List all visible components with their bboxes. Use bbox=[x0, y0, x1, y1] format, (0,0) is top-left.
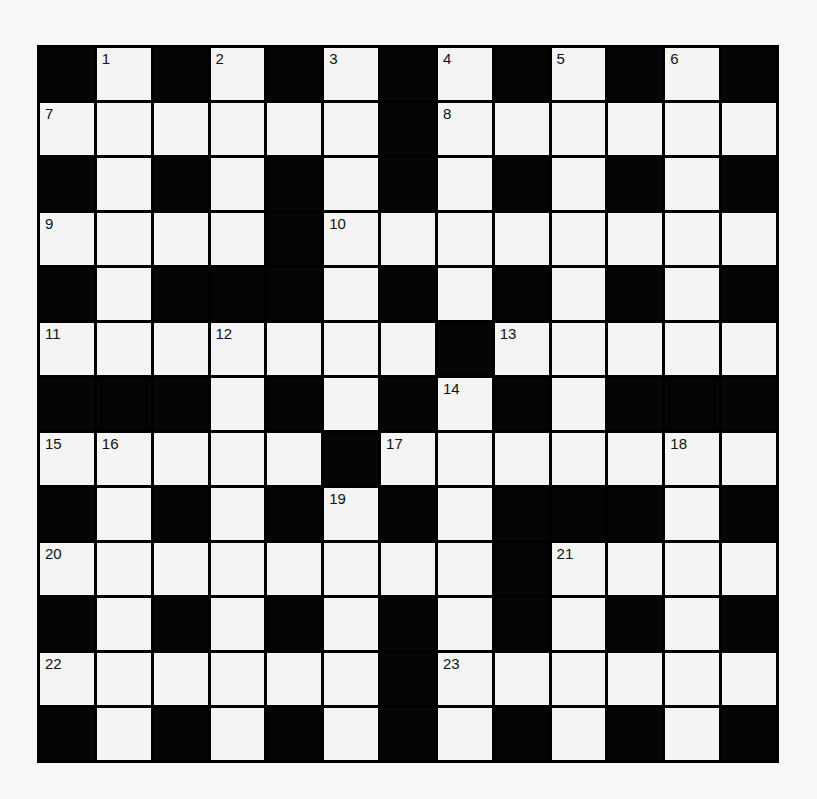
answer-cell[interactable] bbox=[324, 378, 378, 430]
answer-cell[interactable] bbox=[324, 158, 378, 210]
answer-cell[interactable] bbox=[267, 543, 321, 595]
answer-cell[interactable]: 8 bbox=[438, 103, 492, 155]
answer-cell[interactable] bbox=[381, 543, 435, 595]
answer-cell[interactable] bbox=[324, 103, 378, 155]
answer-cell[interactable] bbox=[97, 158, 151, 210]
answer-cell[interactable] bbox=[154, 653, 208, 705]
answer-cell[interactable]: 18 bbox=[665, 433, 719, 485]
answer-cell[interactable] bbox=[608, 433, 662, 485]
answer-cell[interactable] bbox=[552, 213, 606, 265]
answer-cell[interactable]: 2 bbox=[211, 48, 265, 100]
answer-cell[interactable] bbox=[97, 103, 151, 155]
answer-cell[interactable]: 7 bbox=[40, 103, 94, 155]
answer-cell[interactable] bbox=[495, 213, 549, 265]
answer-cell[interactable] bbox=[438, 213, 492, 265]
answer-cell[interactable] bbox=[552, 268, 606, 320]
answer-cell[interactable]: 17 bbox=[381, 433, 435, 485]
answer-cell[interactable] bbox=[381, 323, 435, 375]
answer-cell[interactable]: 22 bbox=[40, 653, 94, 705]
answer-cell[interactable] bbox=[324, 598, 378, 650]
answer-cell[interactable] bbox=[552, 103, 606, 155]
answer-cell[interactable] bbox=[324, 543, 378, 595]
answer-cell[interactable]: 12 bbox=[211, 323, 265, 375]
answer-cell[interactable] bbox=[154, 323, 208, 375]
answer-cell[interactable] bbox=[665, 268, 719, 320]
answer-cell[interactable] bbox=[722, 103, 776, 155]
answer-cell[interactable] bbox=[665, 488, 719, 540]
answer-cell[interactable] bbox=[267, 433, 321, 485]
answer-cell[interactable] bbox=[211, 158, 265, 210]
answer-cell[interactable] bbox=[154, 543, 208, 595]
answer-cell[interactable]: 11 bbox=[40, 323, 94, 375]
answer-cell[interactable] bbox=[495, 103, 549, 155]
answer-cell[interactable]: 6 bbox=[665, 48, 719, 100]
answer-cell[interactable]: 20 bbox=[40, 543, 94, 595]
answer-cell[interactable] bbox=[438, 543, 492, 595]
answer-cell[interactable]: 10 bbox=[324, 213, 378, 265]
answer-cell[interactable]: 15 bbox=[40, 433, 94, 485]
answer-cell[interactable] bbox=[97, 653, 151, 705]
answer-cell[interactable] bbox=[552, 708, 606, 760]
answer-cell[interactable] bbox=[324, 708, 378, 760]
answer-cell[interactable] bbox=[552, 158, 606, 210]
answer-cell[interactable]: 3 bbox=[324, 48, 378, 100]
answer-cell[interactable]: 16 bbox=[97, 433, 151, 485]
answer-cell[interactable] bbox=[438, 268, 492, 320]
answer-cell[interactable] bbox=[665, 598, 719, 650]
answer-cell[interactable]: 14 bbox=[438, 378, 492, 430]
answer-cell[interactable] bbox=[97, 708, 151, 760]
answer-cell[interactable] bbox=[97, 268, 151, 320]
answer-cell[interactable] bbox=[665, 103, 719, 155]
answer-cell[interactable] bbox=[552, 598, 606, 650]
answer-cell[interactable] bbox=[211, 653, 265, 705]
answer-cell[interactable] bbox=[722, 543, 776, 595]
answer-cell[interactable]: 9 bbox=[40, 213, 94, 265]
answer-cell[interactable] bbox=[211, 103, 265, 155]
answer-cell[interactable] bbox=[665, 543, 719, 595]
answer-cell[interactable]: 4 bbox=[438, 48, 492, 100]
answer-cell[interactable] bbox=[324, 323, 378, 375]
answer-cell[interactable] bbox=[608, 323, 662, 375]
answer-cell[interactable] bbox=[438, 158, 492, 210]
answer-cell[interactable] bbox=[495, 653, 549, 705]
answer-cell[interactable] bbox=[154, 433, 208, 485]
answer-cell[interactable] bbox=[665, 213, 719, 265]
answer-cell[interactable] bbox=[438, 708, 492, 760]
answer-cell[interactable] bbox=[438, 488, 492, 540]
answer-cell[interactable] bbox=[154, 103, 208, 155]
answer-cell[interactable] bbox=[665, 323, 719, 375]
answer-cell[interactable] bbox=[552, 433, 606, 485]
answer-cell[interactable] bbox=[438, 598, 492, 650]
answer-cell[interactable] bbox=[267, 323, 321, 375]
answer-cell[interactable] bbox=[211, 378, 265, 430]
answer-cell[interactable] bbox=[211, 708, 265, 760]
answer-cell[interactable] bbox=[211, 598, 265, 650]
answer-cell[interactable] bbox=[211, 433, 265, 485]
answer-cell[interactable] bbox=[97, 543, 151, 595]
answer-cell[interactable] bbox=[495, 433, 549, 485]
answer-cell[interactable] bbox=[608, 213, 662, 265]
answer-cell[interactable] bbox=[608, 653, 662, 705]
answer-cell[interactable] bbox=[722, 653, 776, 705]
answer-cell[interactable] bbox=[665, 708, 719, 760]
answer-cell[interactable] bbox=[97, 598, 151, 650]
answer-cell[interactable] bbox=[552, 378, 606, 430]
answer-cell[interactable] bbox=[97, 213, 151, 265]
answer-cell[interactable] bbox=[722, 213, 776, 265]
answer-cell[interactable] bbox=[97, 323, 151, 375]
answer-cell[interactable] bbox=[267, 103, 321, 155]
answer-cell[interactable] bbox=[211, 543, 265, 595]
answer-cell[interactable] bbox=[324, 653, 378, 705]
answer-cell[interactable]: 1 bbox=[97, 48, 151, 100]
answer-cell[interactable] bbox=[722, 433, 776, 485]
answer-cell[interactable] bbox=[552, 653, 606, 705]
answer-cell[interactable]: 23 bbox=[438, 653, 492, 705]
answer-cell[interactable]: 21 bbox=[552, 543, 606, 595]
answer-cell[interactable] bbox=[552, 323, 606, 375]
answer-cell[interactable]: 19 bbox=[324, 488, 378, 540]
answer-cell[interactable] bbox=[665, 653, 719, 705]
answer-cell[interactable] bbox=[324, 268, 378, 320]
answer-cell[interactable] bbox=[211, 488, 265, 540]
answer-cell[interactable] bbox=[97, 488, 151, 540]
answer-cell[interactable] bbox=[154, 213, 208, 265]
